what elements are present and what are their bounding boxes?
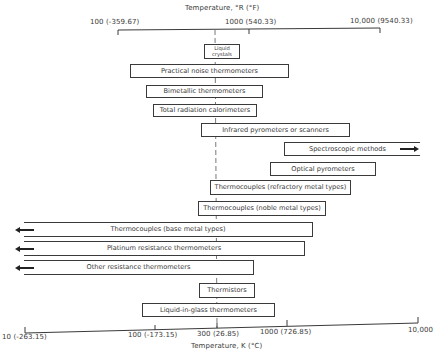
bar-label: Total radiation calorimeters [160, 107, 250, 114]
bottom-tick-label-10000: 10,000 [408, 326, 433, 334]
bar-label: Thermocouples (noble metal types) [203, 205, 321, 212]
top-tick-label-1000: 1000 (540.33) [225, 18, 276, 26]
arrow-right-icon [400, 148, 416, 150]
bar-label: Liquid crystals [205, 46, 239, 57]
bar-label: Other resistance thermometers [87, 264, 191, 271]
bottom-tick-label-100: 100 (-173.15) [128, 331, 177, 339]
bar-label: Platinum resistance thermometers [107, 245, 221, 252]
bar-total-radiation: Total radiation calorimeters [153, 104, 257, 117]
arrow-left-icon [18, 267, 34, 269]
bar-label: Thermocouples (refractory metal types) [215, 184, 347, 191]
bar-liquid-in-glass: Liquid-in-glass thermometers [142, 303, 275, 317]
top-tick-label-10000: 10,000 (9540.33) [350, 17, 413, 25]
top-tick-label-100: 100 (-359.67) [90, 18, 139, 26]
bar-tc-noble: Thermocouples (noble metal types) [198, 201, 326, 216]
bottom-tick-label-1000: 1000 (726.85) [260, 328, 311, 336]
bar-label: Spectroscopic methods [309, 146, 386, 153]
bar-liquid-crystals: Liquid crystals [204, 44, 240, 59]
bar-infrared: Infrared pyrometers or scanners [201, 123, 350, 137]
bar-thermistors: Thermistors [199, 283, 255, 298]
bar-other-resistance: Other resistance thermometers [24, 260, 254, 275]
thermometer-range-chart: Temperature, °R (°F) 100 (-359.67) 1000 … [0, 0, 436, 359]
bar-tc-base: Thermocouples (base metal types) [24, 222, 313, 237]
bar-label: Liquid-in-glass thermometers [160, 307, 257, 314]
bar-tc-refractory: Thermocouples (refractory metal types) [210, 180, 351, 195]
bar-practical-noise: Practical noise thermometers [130, 64, 289, 78]
bar-label: Thermistors [207, 287, 246, 294]
bottom-tick-label-10: 10 (-263.15) [2, 333, 47, 341]
bar-platinum: Platinum resistance thermometers [24, 241, 305, 256]
bar-label: Thermocouples (base metal types) [111, 226, 226, 233]
bar-label: Infrared pyrometers or scanners [222, 127, 329, 134]
bar-optical: Optical pyrometers [270, 162, 376, 176]
arrow-left-icon [18, 248, 34, 250]
bar-label: Optical pyrometers [291, 166, 354, 173]
arrow-left-icon [18, 229, 34, 231]
bottom-tick-label-300: 300 (26.85) [197, 330, 239, 338]
bottom-axis-title: Temperature, K (°C) [191, 342, 262, 350]
bar-bimetallic: Bimetallic thermometers [146, 85, 263, 98]
bar-label: Practical noise thermometers [161, 68, 258, 75]
bar-label: Bimetallic thermometers [164, 88, 246, 95]
